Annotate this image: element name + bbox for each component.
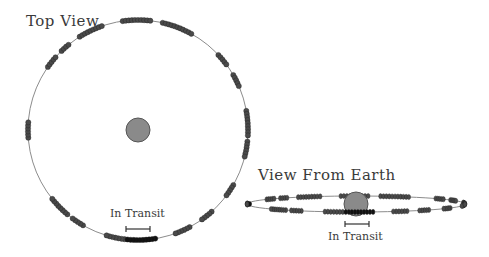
planet-dot — [407, 194, 411, 199]
top-transit-label: In Transit — [110, 207, 165, 220]
planet-dot — [418, 208, 422, 213]
planet-dot — [269, 206, 273, 211]
planet-dot — [245, 133, 250, 138]
star-icon — [126, 118, 150, 142]
top-view-title: Top View — [26, 12, 99, 30]
planet-dot — [236, 83, 241, 88]
planet-dot — [224, 193, 229, 198]
planet-dot — [173, 231, 178, 236]
transit-bracket — [126, 226, 150, 232]
planet-dot — [53, 55, 58, 60]
planet-dot — [70, 216, 75, 221]
planet-dot — [242, 154, 247, 159]
planet-dot — [148, 18, 153, 23]
planet-dot — [50, 196, 55, 201]
planet-dot — [285, 195, 289, 200]
planet-dot — [272, 196, 276, 201]
planet-dot — [99, 24, 104, 29]
planet-dot — [104, 233, 109, 238]
planet-dot — [66, 42, 71, 47]
planet-dot — [454, 198, 458, 203]
earth-view-title: View From Earth — [258, 166, 396, 184]
planet-dot — [442, 206, 446, 211]
planet-dot — [366, 193, 370, 198]
earth-transit-label: In Transit — [328, 230, 383, 243]
diagram-canvas — [0, 0, 489, 257]
planet-dot — [318, 194, 322, 199]
planet-dot — [323, 209, 327, 214]
transit-bracket — [345, 221, 369, 227]
planet-dot — [442, 197, 446, 202]
planet-dot — [189, 31, 194, 36]
earth-view-diagram — [245, 192, 467, 227]
planet-dot — [344, 209, 348, 214]
planet-dot — [199, 217, 204, 222]
planet-dot — [224, 62, 229, 67]
planet-dot — [290, 208, 294, 213]
planet-dot — [125, 237, 130, 242]
planet-dot — [26, 120, 31, 125]
planet-dot — [245, 202, 249, 207]
planet-dot — [463, 202, 467, 207]
planet-dot — [392, 209, 396, 214]
